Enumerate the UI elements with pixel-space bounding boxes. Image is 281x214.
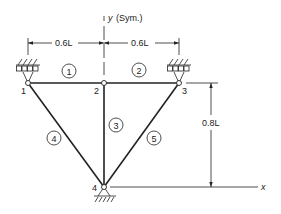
arrow-icon bbox=[28, 41, 33, 44]
svg-text:1: 1 bbox=[66, 67, 71, 77]
svg-text:4: 4 bbox=[51, 134, 56, 144]
height-label: 0.8L bbox=[202, 118, 220, 128]
roller-support-node-1 bbox=[16, 59, 40, 83]
height-dimension: 0.8L bbox=[186, 83, 220, 187]
element-label-1: 1 bbox=[62, 64, 76, 78]
svg-text:3: 3 bbox=[113, 121, 118, 131]
node-label-3: 3 bbox=[182, 86, 187, 96]
svg-text:2: 2 bbox=[136, 66, 141, 76]
symmetry-note: (Sym.) bbox=[116, 13, 143, 23]
arrow-icon bbox=[209, 182, 212, 187]
arrow-icon bbox=[174, 41, 179, 44]
right-span-label: 0.6L bbox=[131, 38, 149, 48]
x-axis-label: x bbox=[260, 182, 266, 192]
element-label-4: 4 bbox=[47, 131, 61, 145]
svg-text:5: 5 bbox=[151, 134, 156, 144]
element-label-3: 3 bbox=[109, 118, 123, 132]
element-label-5: 5 bbox=[147, 131, 161, 145]
arrow-icon bbox=[104, 41, 109, 44]
truss-diagram: y (Sym.) 0.6L 0.6L 0.8L x bbox=[0, 0, 281, 214]
member-4 bbox=[28, 83, 104, 187]
arrow-icon bbox=[209, 83, 212, 88]
element-label-2: 2 bbox=[132, 63, 146, 77]
node-3 bbox=[177, 81, 182, 86]
x-axis: x bbox=[110, 182, 266, 192]
roller-support-node-3 bbox=[167, 59, 191, 83]
member-5 bbox=[104, 83, 179, 187]
node-4 bbox=[102, 185, 107, 190]
arrow-icon bbox=[99, 41, 104, 44]
node-2 bbox=[102, 81, 107, 86]
left-span-label: 0.6L bbox=[55, 38, 73, 48]
node-label-4: 4 bbox=[92, 183, 97, 193]
node-label-1: 1 bbox=[21, 86, 26, 96]
y-axis-label: y bbox=[107, 13, 113, 23]
node-label-2: 2 bbox=[94, 86, 99, 96]
node-1 bbox=[26, 81, 31, 86]
span-dimension: 0.6L 0.6L bbox=[28, 38, 179, 55]
